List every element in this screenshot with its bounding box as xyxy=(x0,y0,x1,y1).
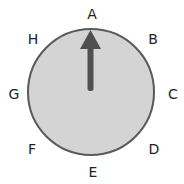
label-b: B xyxy=(143,31,163,47)
label-c: C xyxy=(163,86,183,102)
label-h: H xyxy=(23,31,43,47)
label-g: G xyxy=(4,86,24,102)
label-f: F xyxy=(22,141,42,157)
label-e: E xyxy=(83,164,103,180)
label-d: D xyxy=(144,141,164,157)
label-a: A xyxy=(82,6,102,22)
